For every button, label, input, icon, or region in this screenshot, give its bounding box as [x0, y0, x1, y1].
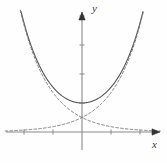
x-axis-label: x: [152, 139, 157, 150]
curves-group: [5, 10, 160, 131]
y-axis-label: y: [92, 3, 97, 14]
axis-arrowheads-group: [79, 12, 160, 135]
x-axis-arrowhead: [152, 129, 160, 135]
hyperbolic-cosine-figure: y x: [0, 0, 167, 163]
graph-canvas: [0, 0, 167, 163]
